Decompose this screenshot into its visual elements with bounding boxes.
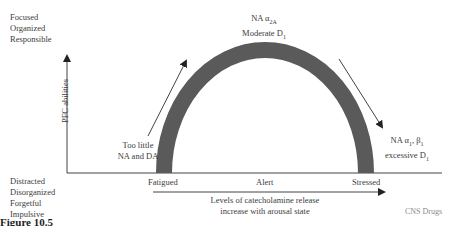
right-line2-sub: 1 <box>426 155 429 161</box>
x-tick-stressed: Stressed <box>352 177 380 188</box>
peak-line1-sub: 2A <box>270 19 277 25</box>
peak-line2: Moderate D <box>242 28 283 38</box>
x-tick-alert: Alert <box>256 177 273 188</box>
y-top-label: Focused <box>10 12 52 23</box>
source-label: CNS Drugs <box>405 207 442 216</box>
y-bottom-label: Distracted <box>10 176 55 187</box>
right-annotation: NA α1, β1 excessive D1 <box>372 135 442 164</box>
right-line2: excessive D <box>385 150 426 160</box>
arousal-label-line: Levels of catecholamine release <box>180 195 350 206</box>
right-sub2: 1 <box>420 141 423 147</box>
arousal-label-line: increase with arousal state <box>180 206 350 217</box>
y-top-label: Responsible <box>10 34 52 45</box>
y-bottom-label: Disorganized <box>10 187 55 198</box>
right-line1: NA α <box>391 135 409 145</box>
inverted-u-curve <box>164 50 366 173</box>
peak-line2-sub: 1 <box>283 33 286 39</box>
left-line: NA and DA <box>108 151 168 162</box>
y-top-label: Organized <box>10 23 52 34</box>
figure-caption: Figure 10.5 <box>0 216 53 226</box>
x-tick-fatigued: Fatigued <box>148 177 178 188</box>
arousal-arrow-label: Levels of catecholamine release increase… <box>180 195 350 217</box>
y-axis-label: PFC abilities <box>60 66 70 136</box>
peak-line1: NA α <box>251 13 269 23</box>
left-annotation: Too little NA and DA <box>108 140 168 162</box>
left-line: Too little <box>108 140 168 151</box>
y-axis-top-labels: Focused Organized Responsible <box>10 12 52 45</box>
y-bottom-label: Forgetful <box>10 198 55 209</box>
y-axis-bottom-labels: Distracted Disorganized Forgetful Impuls… <box>10 176 55 220</box>
peak-annotation: NA α2A Moderate D1 <box>224 13 304 42</box>
